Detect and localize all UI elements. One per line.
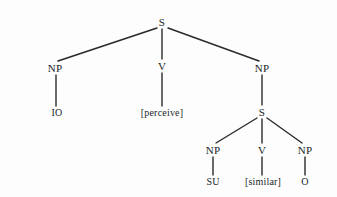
tree-terminal-io: IO [52, 108, 63, 118]
tree-terminal-su: SU [206, 177, 219, 187]
tree-node-v-matrix: V [158, 61, 166, 72]
tree-node-np-o: NP [298, 145, 312, 156]
tree-edge-root_s-to-np_io [58, 28, 157, 61]
tree-edge-embedded_s-to-np_o [267, 118, 302, 143]
tree-edge-root_s-to-np_object [168, 28, 259, 61]
tree-node-np-object: NP [255, 63, 269, 74]
tree-node-np-io: NP [48, 63, 62, 74]
tree-node-embedded-s: S [259, 107, 265, 118]
tree-terminal-perceive: [perceive] [141, 108, 184, 118]
tree-node-np-su: NP [206, 145, 220, 156]
tree-node-v-embedded: V [258, 145, 266, 156]
tree-edge-embedded_s-to-np_su [216, 118, 257, 143]
syntax-tree-diagram: S NP V NP IO [perceive] S NP V NP SU [si… [0, 0, 337, 197]
tree-terminal-similar: [similar] [245, 177, 281, 187]
tree-node-root-s: S [159, 17, 165, 28]
tree-terminal-o: O [301, 177, 308, 187]
tree-edges-layer [0, 0, 337, 197]
